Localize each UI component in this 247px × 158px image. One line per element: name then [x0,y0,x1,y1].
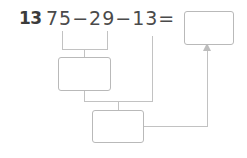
bracket-first-left-leg [62,31,63,50]
bracket-first-right-leg [107,31,108,50]
problem-number: 13 [19,8,42,28]
math-problem-worksheet: 13 75−29−13= [0,0,247,158]
math-expression: 75−29−13= [46,6,175,30]
bracket-second-stem [118,101,119,110]
final-answer-box[interactable] [184,11,234,45]
arrow-horizontal-segment [144,126,208,127]
second-step-answer-box[interactable] [92,110,144,143]
arrow-vertical-segment [207,50,208,127]
bracket-second-right-leg [152,36,153,102]
first-step-answer-box[interactable] [58,57,111,91]
